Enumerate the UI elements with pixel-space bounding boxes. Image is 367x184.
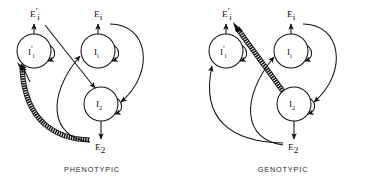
figure-root: I'i Ii I2 E'i Ei E2 PHENOTYPIC <box>0 0 367 184</box>
caption-genotypic: GENOTYPIC <box>258 165 309 174</box>
caption-phenotypic: PHENOTYPIC <box>64 165 120 174</box>
node-Iprime-i <box>209 34 243 68</box>
diagram-svg: I'i Ii I2 E'i Ei E2 PHENOTYPIC <box>0 0 367 184</box>
node-I-i <box>274 34 308 68</box>
node-Iprime-i <box>17 34 51 68</box>
canvas-background <box>0 0 367 184</box>
node-I-i <box>81 34 115 68</box>
